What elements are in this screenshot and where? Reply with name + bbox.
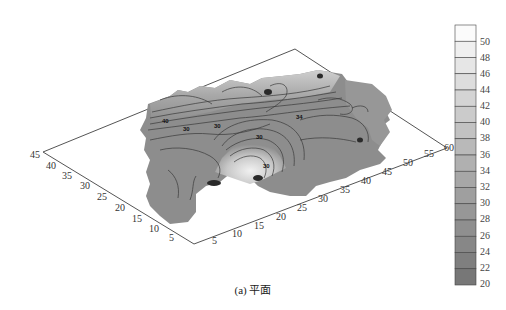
y-tick-10: 10 <box>149 223 159 234</box>
cb-tick-32: 32 <box>480 181 490 192</box>
colorbar-ticks: 50 48 46 44 42 40 38 36 34 32 30 28 26 2… <box>480 36 490 289</box>
cb-tick-30: 30 <box>480 197 490 208</box>
contour-map: 40 30 30 30 34 30 <box>140 70 392 224</box>
y-tick-35: 35 <box>62 170 72 181</box>
x-tick-40: 40 <box>361 175 371 186</box>
cb-tick-26: 26 <box>480 230 490 241</box>
y-tick-20: 20 <box>115 202 125 213</box>
x-tick-25: 25 <box>297 202 307 213</box>
cb-tick-22: 22 <box>480 262 490 273</box>
x-tick-5: 5 <box>212 235 217 246</box>
x-tick-60: 60 <box>444 142 454 153</box>
x-tick-35: 35 <box>340 184 350 195</box>
svg-text:30: 30 <box>256 134 263 140</box>
figure-caption: (a) 平面 <box>0 281 506 297</box>
x-tick-45: 45 <box>382 166 392 177</box>
colorbar <box>455 25 476 285</box>
cb-tick-36: 36 <box>480 149 490 160</box>
cb-tick-28: 28 <box>480 213 490 224</box>
contour-figure: 40 30 30 30 34 30 45 40 35 30 25 20 15 1… <box>0 0 506 310</box>
svg-text:30: 30 <box>214 123 221 129</box>
cb-tick-50: 50 <box>480 36 490 47</box>
y-tick-30: 30 <box>80 180 90 191</box>
cb-tick-24: 24 <box>480 246 490 257</box>
x-tick-20: 20 <box>276 211 286 222</box>
cb-tick-34: 34 <box>480 165 490 176</box>
y-tick-45: 45 <box>30 149 40 160</box>
svg-text:30: 30 <box>183 126 190 132</box>
y-tick-40: 40 <box>46 160 56 171</box>
x-tick-10: 10 <box>232 228 242 239</box>
svg-text:40: 40 <box>162 118 169 124</box>
cb-tick-40: 40 <box>480 116 490 127</box>
svg-text:34: 34 <box>296 114 303 120</box>
cb-tick-38: 38 <box>480 132 490 143</box>
cb-tick-44: 44 <box>480 84 490 95</box>
cb-tick-42: 42 <box>480 100 490 111</box>
y-tick-25: 25 <box>97 191 107 202</box>
x-tick-50: 50 <box>403 157 413 168</box>
svg-text:30: 30 <box>263 163 270 169</box>
cb-tick-48: 48 <box>480 52 490 63</box>
x-tick-15: 15 <box>254 220 264 231</box>
y-tick-15: 15 <box>132 213 142 224</box>
x-tick-30: 30 <box>318 193 328 204</box>
x-tick-55: 55 <box>424 148 434 159</box>
cb-tick-46: 46 <box>480 68 490 79</box>
y-tick-5: 5 <box>169 232 174 243</box>
